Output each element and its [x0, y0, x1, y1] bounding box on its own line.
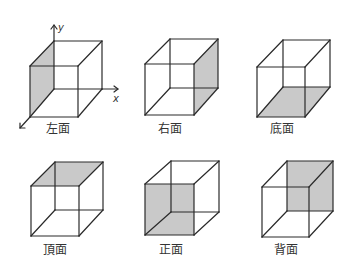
- cube-bottom: 底面: [257, 40, 330, 136]
- shaded-bottom-face: [257, 87, 330, 117]
- cube-edge: [31, 210, 55, 236]
- cube-edge: [194, 212, 219, 235]
- cube-edge: [262, 161, 287, 187]
- cube-edge: [79, 210, 103, 236]
- cube-edge: [145, 88, 170, 115]
- face-label: 右面: [158, 121, 182, 136]
- y-axis-label: y: [57, 22, 65, 33]
- face-label: 背面: [274, 243, 298, 257]
- cube-edge: [194, 161, 219, 184]
- face-label: 左面: [46, 121, 70, 136]
- cube-right: 右面: [145, 39, 218, 136]
- cube-edge: [78, 89, 102, 117]
- face-label: 底面: [270, 121, 294, 136]
- shaded-top-face: [31, 162, 103, 186]
- cube-faces-diagram: 左面右面底面頂面正面背面 y x: [0, 0, 355, 274]
- x-axis-label: x: [112, 93, 119, 104]
- shaded-left-face: [30, 41, 54, 117]
- cube-edge: [262, 211, 287, 237]
- face-label: 頂面: [43, 243, 67, 257]
- cubes-layer: 左面右面底面頂面正面背面: [30, 39, 333, 257]
- cube-edge: [257, 40, 283, 67]
- face-label: 正面: [159, 243, 183, 257]
- cube-front: 正面: [145, 161, 219, 257]
- cube-top: 頂面: [31, 162, 103, 257]
- cube-edge: [145, 161, 171, 184]
- cube-left: 左面: [30, 41, 102, 136]
- cube-edge: [78, 41, 102, 66]
- cube-back: 背面: [262, 161, 333, 257]
- shaded-right-face: [194, 39, 218, 115]
- shaded-front-face: [145, 184, 194, 235]
- cube-edge: [145, 39, 170, 64]
- z-axis-arrow: [20, 117, 30, 128]
- cube-edge: [305, 40, 330, 67]
- cube-edge: [309, 211, 333, 237]
